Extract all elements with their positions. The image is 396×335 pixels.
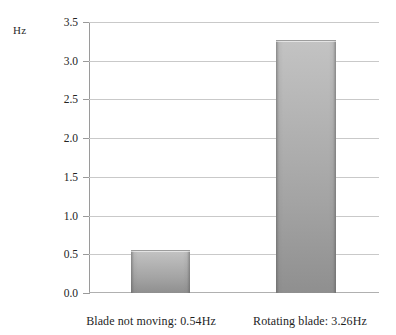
y-tick-label: 1.0	[44, 210, 78, 222]
y-tick-label: 3.0	[44, 55, 78, 67]
y-tick-label: 2.0	[44, 132, 78, 144]
y-tick-label: 0.5	[44, 248, 78, 260]
plot-area	[89, 22, 379, 293]
y-axis-tick-labels: 3.5 3.0 2.5 2.0 1.5 1.0 0.5 0.0	[44, 0, 78, 335]
category-label-rotating-blade: Rotating blade: 3.26Hz	[231, 314, 389, 329]
y-tick-label: 3.5	[44, 16, 78, 28]
y-tick-label: 0.0	[44, 287, 78, 299]
category-axis-labels: Blade not moving: 0.54Hz Rotating blade:…	[0, 314, 396, 335]
bar-rotating-blade[interactable]	[276, 40, 336, 293]
category-label-blade-not-moving: Blade not moving: 0.54Hz	[71, 314, 231, 329]
bar-blade-not-moving[interactable]	[131, 250, 190, 293]
y-axis-unit-label: Hz	[13, 24, 26, 36]
bar-chart-figure: Hz 3.5 3.0 2.5 2.0 1.5 1.0 0.5 0.0 Blade	[0, 0, 396, 335]
y-tick-label: 1.5	[44, 171, 78, 183]
gridline	[89, 22, 379, 23]
y-tick-label: 2.5	[44, 93, 78, 105]
